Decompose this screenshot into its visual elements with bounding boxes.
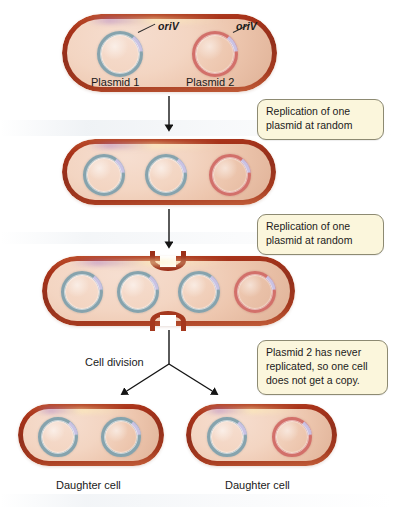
septum-gap-top: [160, 256, 176, 267]
plasmid-ring-inner-highlight: [148, 157, 184, 193]
callout-replication-1: Replication of one plasmid at random: [257, 99, 384, 140]
scan-band-3: [0, 494, 393, 507]
division-septum: [161, 256, 175, 326]
stage3-plasmid-blue-b: [117, 271, 159, 313]
callout-line: plasmid at random: [266, 234, 375, 248]
septum-pinch-bottom: [150, 311, 186, 331]
daughter-cell-left-label: Daughter cell: [56, 479, 121, 492]
callout-replication-2: Replication of one plasmid at random: [257, 214, 384, 255]
plasmid-ring-inner-highlight: [237, 274, 273, 310]
stage2-plasmid-red: [209, 154, 251, 196]
plasmid-ring-inner-highlight: [275, 420, 309, 454]
plasmid-ring-inner-highlight: [100, 34, 140, 74]
oriv-label-1: oriV: [158, 20, 179, 32]
plasmid-ring-inner-highlight: [210, 420, 244, 454]
plasmid-2-label: Plasmid 2: [186, 76, 234, 89]
stage3-plasmid-blue-c: [178, 271, 220, 313]
stage3-plasmid-blue-a: [61, 271, 103, 313]
plasmid-2-red-ring: [192, 31, 238, 77]
plasmid-ring-inner-highlight: [120, 274, 156, 310]
plasmid-ring-inner-highlight: [212, 157, 248, 193]
daughter-right-plasmid-blue: [207, 417, 247, 457]
plasmid-ring-inner-highlight: [64, 274, 100, 310]
stage2-plasmid-blue-b: [145, 154, 187, 196]
plasmid-ring-inner-highlight: [195, 34, 235, 74]
callout-line: Replication of one: [266, 220, 375, 234]
callout-line: replicated, so one cell: [266, 360, 379, 374]
daughter-right-plasmid-red: [272, 417, 312, 457]
plasmid-ring-inner-highlight: [181, 274, 217, 310]
plasmid-ring-inner-highlight: [41, 420, 75, 454]
plasmid-1-label: Plasmid 1: [91, 76, 139, 89]
callout-line: Replication of one: [266, 105, 375, 119]
plasmid-ring-inner-highlight: [104, 420, 138, 454]
figure-canvas: oriV Plasmid 1 oriV Plasmid 2 Replicatio…: [0, 0, 393, 507]
callout-line: does not get a copy.: [266, 374, 379, 388]
oriv-label-2: oriV: [236, 20, 257, 32]
callout-line: plasmid at random: [266, 119, 375, 133]
daughter-left-plasmid-b: [101, 417, 141, 457]
cell-division-label: Cell division: [85, 356, 144, 369]
plasmid-ring-inner-highlight: [86, 157, 122, 193]
arrow-to-daughter-right: [169, 364, 217, 394]
plasmid-1-blue-ring: [97, 31, 143, 77]
callout-line: Plasmid 2 has never: [266, 346, 379, 360]
daughter-left-plasmid-a: [38, 417, 78, 457]
septum-gap-bottom: [160, 315, 176, 326]
stage3-plasmid-red: [234, 271, 276, 313]
stage2-plasmid-blue-a: [83, 154, 125, 196]
callout-no-copy: Plasmid 2 has never replicated, so one c…: [257, 340, 388, 395]
daughter-cell-right-label: Daughter cell: [225, 479, 290, 492]
septum-pinch-top: [150, 251, 186, 271]
